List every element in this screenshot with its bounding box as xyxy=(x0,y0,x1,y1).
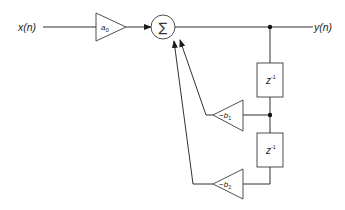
sigma-icon: ∑ xyxy=(159,20,168,35)
output-label: y(n) xyxy=(313,21,332,33)
input-label: x(n) xyxy=(17,21,36,33)
delay-line-3 xyxy=(243,167,270,184)
feedback-arrow-1 xyxy=(180,40,213,115)
iir-filter-diagram: x(n) a0 ∑ y(n) z-1 z-1 −b1 −b2 xyxy=(0,0,345,210)
feedback-arrow-2 xyxy=(174,41,213,184)
